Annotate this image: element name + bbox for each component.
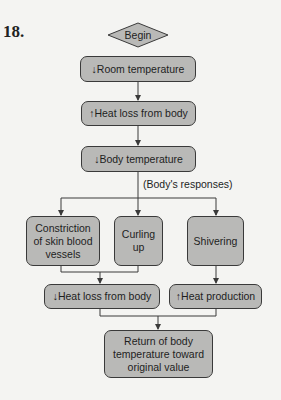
heat-loss-increase-node: ↑Heat loss from body <box>81 101 196 126</box>
return-node: Return of body temperature toward origin… <box>104 330 213 378</box>
shivering-node: Shivering <box>187 216 244 266</box>
heat-loss-decrease-node: ↓Heat loss from body <box>44 284 160 309</box>
responses-label: (Body's responses) <box>143 178 233 190</box>
begin-node: Begin <box>108 23 168 47</box>
curling-up-node: Curling up <box>114 216 163 266</box>
body-temperature-node: ↓Body temperature <box>81 146 196 172</box>
heat-production-node: ↑Heat production <box>169 284 262 309</box>
room-temperature-node: ↓Room temperature <box>80 56 196 82</box>
constriction-node: Constriction of skin blood vessels <box>26 216 100 266</box>
